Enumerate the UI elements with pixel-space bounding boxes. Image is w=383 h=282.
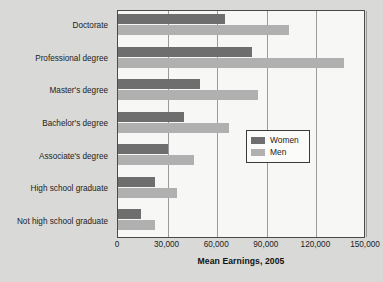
bar-group <box>118 109 364 142</box>
legend: WomenMen <box>246 130 310 163</box>
x-tick-label: 90,000 <box>253 240 278 250</box>
category-label: High school graduate <box>0 184 108 193</box>
bar-men <box>118 155 194 165</box>
bar-group <box>118 174 364 207</box>
bars-layer <box>118 11 364 237</box>
category-label: Doctorate <box>0 21 108 30</box>
bar-women <box>118 47 252 57</box>
bar-men <box>118 25 289 35</box>
value-axis-tick-labels: 030,00060,00090,000120,000150,000 <box>0 240 383 252</box>
x-tick-label: 0 <box>115 240 120 250</box>
bar-women <box>118 177 155 187</box>
category-label: Professional degree <box>0 54 108 63</box>
category-label: Master's degree <box>0 86 108 95</box>
bar-men <box>118 123 229 133</box>
legend-item: Women <box>251 134 305 146</box>
bar-women <box>118 14 225 24</box>
bar-group <box>118 76 364 109</box>
category-label: Bachelor's degree <box>0 119 108 128</box>
bar-women <box>118 209 141 219</box>
legend-swatch <box>251 137 265 144</box>
x-tick-label: 60,000 <box>204 240 229 250</box>
category-label: Not high school graduate <box>0 217 108 226</box>
bar-men <box>118 220 155 230</box>
bar-men <box>118 188 177 198</box>
bar-women <box>118 112 184 122</box>
category-label: Associate's degree <box>0 152 108 161</box>
legend-label: Women <box>270 136 299 145</box>
bar-group <box>118 141 364 174</box>
bar-chart: DoctorateProfessional degreeMaster's deg… <box>0 0 383 282</box>
x-axis-title: Mean Earnings, 2005 <box>117 256 365 266</box>
plot-area <box>117 10 365 238</box>
bar-men <box>118 58 344 68</box>
bar-group <box>118 206 364 239</box>
x-tick-label: 30,000 <box>154 240 179 250</box>
x-tick-label: 150,000 <box>350 240 380 250</box>
bar-women <box>118 144 168 154</box>
bar-women <box>118 79 200 89</box>
legend-swatch <box>251 149 265 156</box>
legend-item: Men <box>251 146 305 158</box>
bar-group <box>118 44 364 77</box>
bar-group <box>118 11 364 44</box>
gridline <box>366 11 367 237</box>
category-axis-labels: DoctorateProfessional degreeMaster's deg… <box>0 10 112 238</box>
bar-men <box>118 90 258 100</box>
legend-label: Men <box>270 148 286 157</box>
x-tick-label: 120,000 <box>301 240 331 250</box>
